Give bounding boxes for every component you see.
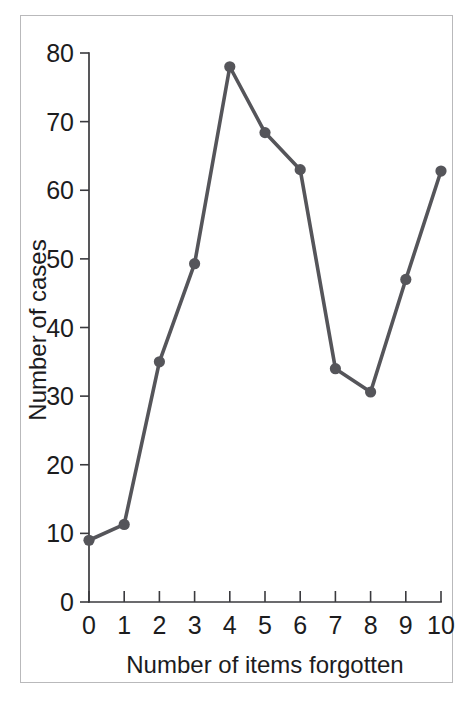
line-chart: 01020304050607080 012345678910 Number of… xyxy=(0,0,467,701)
data-point xyxy=(365,386,376,397)
data-point xyxy=(224,61,235,72)
x-tick-label-5: 5 xyxy=(258,611,272,639)
y-axis: 01020304050607080 xyxy=(46,39,89,616)
y-tick-label-60: 60 xyxy=(46,176,74,204)
data-point xyxy=(189,258,200,269)
y-axis-title: Number of cases xyxy=(24,239,51,420)
data-point xyxy=(154,356,165,367)
data-point xyxy=(330,363,341,374)
x-tick-label-0: 0 xyxy=(82,611,96,639)
x-tick-label-3: 3 xyxy=(188,611,202,639)
y-axis-ticks xyxy=(80,53,89,602)
data-point xyxy=(435,165,446,176)
x-tick-label-8: 8 xyxy=(364,611,378,639)
y-tick-label-80: 80 xyxy=(46,39,74,67)
x-tick-label-7: 7 xyxy=(328,611,342,639)
data-point xyxy=(295,164,306,175)
x-axis-title: Number of items forgotten xyxy=(126,651,403,678)
data-point xyxy=(259,127,270,138)
data-point xyxy=(83,535,94,546)
x-axis: 012345678910 xyxy=(82,591,455,639)
y-tick-label-10: 10 xyxy=(46,519,74,547)
x-tick-label-9: 9 xyxy=(399,611,413,639)
x-tick-label-1: 1 xyxy=(117,611,131,639)
x-tick-label-10: 10 xyxy=(427,611,455,639)
y-tick-label-70: 70 xyxy=(46,108,74,136)
data-point xyxy=(400,274,411,285)
x-tick-label-4: 4 xyxy=(223,611,237,639)
data-series-group xyxy=(83,61,446,546)
x-tick-label-2: 2 xyxy=(152,611,166,639)
y-tick-label-20: 20 xyxy=(46,451,74,479)
x-tick-label-6: 6 xyxy=(293,611,307,639)
x-axis-tick-labels: 012345678910 xyxy=(82,611,455,639)
data-point xyxy=(119,519,130,530)
y-tick-label-0: 0 xyxy=(60,588,74,616)
series-markers xyxy=(83,61,446,546)
x-axis-ticks xyxy=(89,591,441,602)
